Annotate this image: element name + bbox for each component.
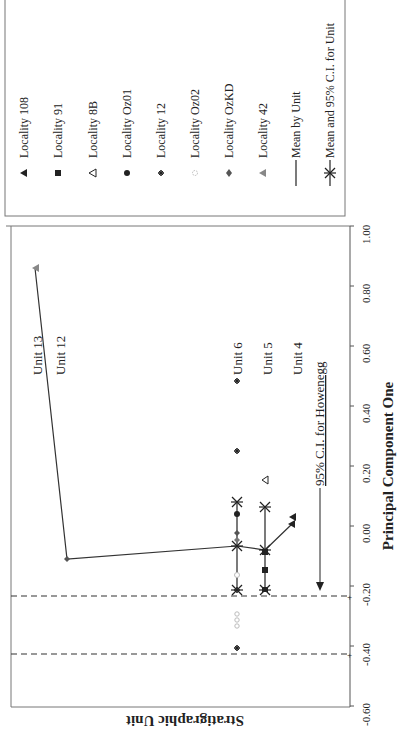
legend-label-0: Locality 108 — [17, 97, 31, 158]
legend-label-8: Mean by Unit — [289, 91, 303, 158]
point-oz02-icon — [235, 612, 239, 616]
legend-label-7: Locality 42 — [256, 103, 270, 158]
point-ozkd-unit12-icon — [64, 556, 70, 562]
howenegg-ci-label: 95% C.I. for Howenegg — [312, 361, 327, 486]
x-axis-ticks — [350, 226, 354, 706]
tick-label-0.60: 0.60 — [360, 343, 372, 363]
howenegg-arrow-head-icon — [316, 582, 324, 591]
tick-label-0.40: 0.40 — [360, 403, 372, 423]
tick-label-neg0.20: -0.20 — [360, 583, 372, 606]
tick-label-neg0.40: -0.40 — [360, 643, 372, 666]
point-loc91-icon — [262, 549, 268, 555]
legend-label-9: Mean and 95% C.I. for Unit — [323, 22, 337, 158]
tick-label-1.00: 1.00 — [360, 224, 372, 244]
unit-6-label: Unit 6 — [230, 342, 245, 375]
plot-area: 1.00 0.80 0.60 0.40 0.20 0.00 -0.20 -0.4… — [6, 224, 396, 729]
legend-marker-gray-triangle-icon — [259, 169, 266, 177]
legend-label-2: Locality 8B — [86, 101, 100, 158]
legend-marker-hollow-triangle-icon — [89, 169, 96, 177]
unit-12-label: Unit 12 — [53, 336, 68, 375]
legend-label-5: Locality Oz02 — [188, 89, 202, 158]
tick-label-0.20: 0.20 — [360, 463, 372, 483]
point-loc12-icon — [234, 378, 240, 384]
point-loc108-icon — [289, 513, 296, 521]
tick-label-0.00: 0.00 — [360, 523, 372, 543]
mean-by-unit-line — [35, 268, 292, 559]
point-oz01-icon — [234, 511, 240, 517]
legend-marker-filled-triangle-icon — [20, 169, 27, 177]
point-loc12-icon — [234, 645, 240, 651]
legend-label-6: Locality OzKD — [222, 83, 236, 158]
y-axis-title: Stratigraphic Unit — [126, 713, 244, 729]
tick-label-0.80: 0.80 — [360, 283, 372, 303]
unit-5-label: Unit 5 — [260, 342, 275, 375]
legend-marker-hollow-circle-icon — [193, 171, 198, 176]
legend-marker-filled-circle-icon — [124, 170, 130, 176]
axis-tick-plus: + — [347, 650, 352, 660]
point-ozkd-icon — [234, 530, 240, 536]
legend-marker-filled-square-icon — [55, 170, 61, 176]
unit-4-label: Unit 4 — [290, 342, 305, 375]
legend-marker-asterisk-icon — [158, 170, 164, 176]
point-ozkd-icon — [234, 537, 240, 543]
point-loc91-icon — [262, 587, 268, 592]
point-loc8b-icon — [262, 476, 268, 484]
x-axis-title: Principal Component One — [380, 381, 396, 550]
axis-tick-plus: + — [347, 592, 352, 602]
legend-label-4: Locality 12 — [154, 103, 168, 158]
legend-label-3: Locality Oz01 — [120, 89, 134, 158]
point-oz02-icon — [235, 618, 239, 622]
point-oz02-icon — [235, 624, 239, 628]
pca-chart: Locality 108 Locality 91 Locality 8B Loc… — [0, 0, 405, 748]
legend-marker-plus-diamond-icon — [226, 169, 232, 177]
point-loc12-icon — [234, 448, 240, 454]
tick-label-neg0.60: -0.60 — [360, 703, 372, 726]
point-loc91-icon — [262, 567, 268, 573]
point-oz02-icon — [235, 573, 240, 578]
legend-label-1: Locality 91 — [51, 103, 65, 158]
legend: Locality 108 Locality 91 Locality 8B Loc… — [5, 0, 345, 216]
